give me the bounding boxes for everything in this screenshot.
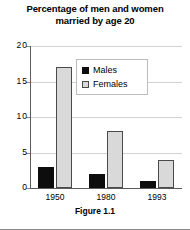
chart-legend: Males Females	[76, 59, 148, 95]
chart-title: Percentage of men and women married by a…	[0, 3, 190, 27]
y-axis-tick-label: 20	[2, 41, 28, 50]
legend-item-females: Females	[82, 77, 143, 91]
bar-females-1980	[107, 131, 123, 188]
legend-swatch-females-icon	[82, 81, 89, 88]
x-axis-line	[30, 188, 182, 189]
legend-swatch-males-icon	[82, 67, 89, 74]
x-axis-tick-label: 1950	[35, 192, 75, 202]
y-axis-tick-label: 10	[2, 112, 28, 121]
chart-title-line-2: married by age 20	[0, 15, 190, 27]
figure-1-1: Percentage of men and women married by a…	[0, 0, 190, 230]
legend-label-females: Females	[93, 79, 128, 89]
x-axis-tick-label: 1980	[86, 192, 126, 202]
bar-males-1993	[140, 181, 156, 188]
bar-males-1950	[38, 167, 54, 188]
y-axis-tick-label: 15	[2, 77, 28, 86]
bar-females-1993	[158, 160, 174, 188]
bar-females-1950	[56, 67, 72, 188]
legend-item-males: Males	[82, 63, 143, 77]
chart-title-line-1: Percentage of men and women	[0, 3, 190, 15]
y-axis-tick-label: 0	[2, 183, 28, 192]
legend-label-males: Males	[93, 65, 117, 75]
figure-caption: Figure 1.1	[0, 206, 190, 216]
x-axis-tick-label: 1993	[137, 192, 177, 202]
bar-males-1980	[89, 174, 105, 188]
y-axis-tick-label: 5	[2, 148, 28, 157]
